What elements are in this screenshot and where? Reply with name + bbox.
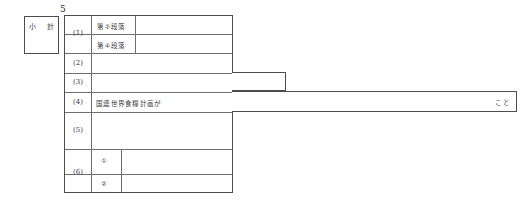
sub-row-label-paragraph-4: 第④段落 [97, 40, 126, 50]
row-number-1: (1) [65, 29, 91, 37]
answer-grid: (1) 第②段落 第④段落 (2) (3) (4) 国連世界食糧計画が (5) … [64, 15, 233, 193]
sub-row-label-1: ① [101, 157, 107, 165]
grid-rule [135, 16, 136, 53]
grid-join-mask [231, 74, 234, 90]
answer-extension-4[interactable]: こと [232, 91, 517, 112]
sub-row-label-paragraph-2: 第②段落 [97, 21, 126, 31]
row-number-4: (4) [65, 98, 91, 106]
row-number-6: (6) [65, 168, 91, 176]
answer-extension-4-suffix: こと [495, 97, 510, 107]
row-number-2: (2) [65, 59, 91, 67]
grid-rule [91, 16, 92, 192]
answer-sheet: 小 計 5 (1) 第②段落 第④段落 (2) (3) (4) 国連世界食糧計 [0, 0, 532, 201]
subtotal-box[interactable]: 小 計 [24, 16, 59, 54]
grid-rule [121, 149, 122, 192]
answer-field-4[interactable]: 国連世界食糧計画が [96, 98, 162, 108]
row-number-3: (3) [65, 78, 91, 86]
sub-row-label-2: ② [101, 180, 107, 188]
grid-join-mask [231, 93, 234, 111]
subtotal-label: 小 計 [25, 21, 58, 31]
row-number-5: (5) [65, 126, 91, 134]
question-number: 5 [60, 5, 66, 14]
answer-extension-3[interactable] [232, 72, 286, 91]
